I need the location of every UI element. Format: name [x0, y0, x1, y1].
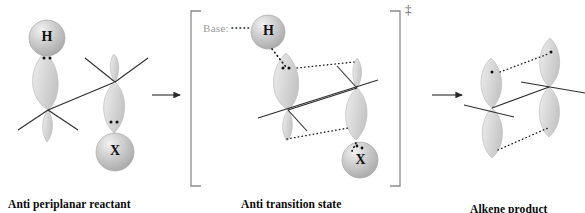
base-label-colon: : [226, 22, 229, 34]
atom-label-h-reactant: H [38, 29, 56, 45]
caption-reactant: Anti periplanar reactant [8, 198, 131, 210]
orbital-lobe-lower-left [43, 110, 53, 142]
ts-orbital-lobe-lower-left [283, 110, 293, 141]
double-dagger-symbol: ‡ [405, 2, 412, 18]
base-label-text: Base [203, 22, 226, 34]
reactant-left-carbon-bonds [18, 82, 115, 130]
product-lobe-lower-left [482, 108, 502, 158]
atom-label-x-ts: X [352, 152, 369, 168]
product-lobe-upper-right [540, 38, 560, 87]
ts-orbital-lobe-upper-left [274, 53, 299, 110]
atom-label-x-reactant: X [106, 143, 124, 159]
alkene-product-structure [464, 38, 585, 158]
caption-alkene-product: Alkene product [470, 203, 548, 213]
ts-right-carbon-orbital [346, 58, 367, 140]
atom-label-h-ts: H [260, 23, 277, 39]
orbital-lobe-upper-right [110, 54, 118, 82]
product-lobe-upper-left [481, 58, 502, 108]
orbital-lobe-lower-right [104, 82, 125, 133]
orbital-diagram-canvas [0, 0, 585, 213]
reactant-left-carbon-orbital [33, 52, 59, 142]
caption-transition-state: Anti transition state [241, 198, 341, 210]
reactant-right-carbon-orbital [104, 54, 125, 133]
base-label: Base: [203, 22, 229, 34]
orbital-lobe-upper-left [33, 52, 59, 110]
product-lobe-lower-right [539, 87, 559, 137]
ts-orbital-lobe-lower-right [346, 88, 367, 140]
product-right-p-orbital [539, 38, 559, 137]
